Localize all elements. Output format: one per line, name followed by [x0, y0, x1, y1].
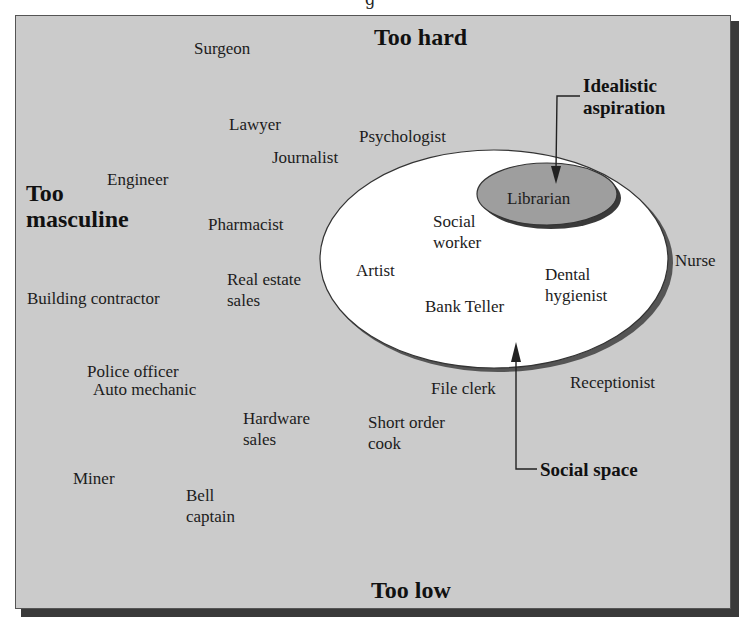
occupation-short-order-cook: Short order cook [368, 412, 445, 454]
occupation-dental-hygienist: Dental hygienist [545, 264, 607, 306]
occupation-engineer: Engineer [107, 169, 168, 190]
callout-idealistic-aspiration: Idealistic aspiration [583, 75, 665, 119]
occupation-psychologist: Psychologist [359, 126, 446, 147]
occupation-nurse: Nurse [675, 250, 716, 271]
occupation-receptionist: Receptionist [570, 372, 655, 393]
occupation-journalist: Journalist [272, 147, 338, 168]
axis-label-too-low: Too low [371, 577, 451, 603]
occupation-librarian: Librarian [507, 188, 570, 209]
occupation-hardware-sales: Hardware sales [243, 408, 310, 450]
occupation-lawyer: Lawyer [229, 114, 281, 135]
axis-label-too-hard: Too hard [374, 24, 467, 50]
occupation-pharmacist: Pharmacist [208, 214, 284, 235]
occupation-artist: Artist [356, 260, 395, 281]
occupation-social-worker: Social worker [433, 211, 481, 253]
occupation-bank-teller: Bank Teller [425, 296, 504, 317]
callout-social-space: Social space [540, 459, 638, 481]
occupation-file-clerk: File clerk [431, 378, 496, 399]
occupation-miner: Miner [73, 468, 115, 489]
occupation-building-contractor: Building contractor [27, 288, 160, 309]
occupation-auto-mechanic: Auto mechanic [93, 379, 196, 400]
occupation-surgeon: Surgeon [194, 38, 250, 59]
occupation-real-estate-sales: Real estate sales [227, 269, 301, 311]
occupation-bell-captain: Bell captain [186, 485, 235, 527]
